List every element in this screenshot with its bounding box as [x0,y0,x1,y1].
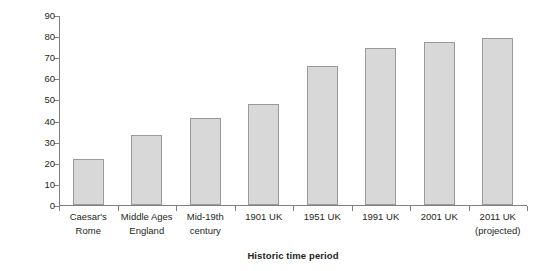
bar [73,159,104,205]
y-axis-tick-label: 70 [44,51,55,64]
x-axis-category-labels: Caesar'sRomeMiddle AgesEnglandMid-19thce… [59,210,527,250]
y-axis-line [59,16,60,206]
x-axis-category-label: 2011 UK(projected) [463,210,534,237]
bar [365,48,396,205]
y-axis-tick-label: 90 [44,9,55,22]
plot-area: 0102030405060708090 [59,16,527,206]
x-axis-category-label-line: century [170,224,241,238]
bar [424,42,455,205]
bar [190,118,221,205]
bar [307,66,338,205]
y-axis-tick-label: 40 [44,115,55,128]
x-axis-title: Historic time period [59,250,527,261]
y-axis-tick-label: 20 [44,157,55,170]
y-axis-tick-label: 10 [44,178,55,191]
x-axis-category-label-line: (projected) [463,224,534,238]
y-axis-tick-label: 80 [44,30,55,43]
y-axis-tick-label: 60 [44,72,55,85]
bar [131,135,162,205]
bar-chart: Average life span 0102030405060708090 Ca… [0,0,543,271]
y-axis-tick-label: 30 [44,136,55,149]
x-axis-category-label-line: 2011 UK [463,210,534,224]
y-axis-tick-label: 50 [44,93,55,106]
bar [482,38,513,205]
y-axis-title-container: Average life span [8,14,30,206]
bar [248,104,279,205]
